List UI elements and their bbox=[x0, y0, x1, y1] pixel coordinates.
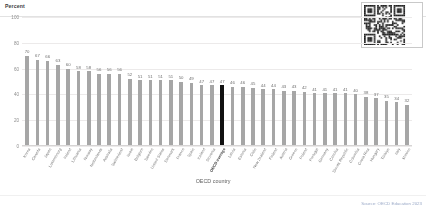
bar-column: 50 bbox=[176, 17, 186, 146]
plot-area: 020406080100 706766636058585656565251515… bbox=[22, 17, 412, 146]
bar-value-label: 42 bbox=[302, 85, 307, 90]
x-axis-tick-label: Mexico bbox=[401, 147, 411, 160]
bar-value-label: 51 bbox=[168, 74, 173, 79]
bar-column: 32 bbox=[402, 17, 412, 146]
bar-value-label: 49 bbox=[189, 76, 194, 81]
bar-value-label: 41 bbox=[343, 87, 348, 92]
bar-value-label: 47 bbox=[199, 79, 204, 84]
bar[interactable] bbox=[385, 101, 389, 146]
bar[interactable] bbox=[179, 82, 183, 147]
bar-column: 43 bbox=[279, 17, 289, 146]
bar[interactable] bbox=[261, 89, 265, 146]
bar[interactable] bbox=[97, 74, 101, 146]
bar[interactable] bbox=[210, 85, 214, 146]
bar-value-label: 50 bbox=[179, 75, 184, 80]
bar[interactable] bbox=[56, 65, 60, 146]
bar[interactable] bbox=[313, 93, 317, 146]
bar-column: 44 bbox=[258, 17, 268, 146]
bar[interactable] bbox=[87, 71, 91, 146]
bar-value-label: 35 bbox=[384, 94, 389, 99]
x-axis-tick-label: Austria bbox=[278, 147, 288, 160]
bar[interactable] bbox=[323, 93, 327, 146]
bar[interactable] bbox=[66, 69, 70, 146]
bar[interactable] bbox=[107, 74, 111, 146]
bar[interactable] bbox=[159, 80, 163, 146]
x-axis-tick-label: Türkiye bbox=[380, 147, 391, 161]
bar-value-label: 51 bbox=[148, 74, 153, 79]
bar-column: 46 bbox=[238, 17, 248, 146]
bar-value-label: 43 bbox=[281, 84, 286, 89]
bar-value-label: 46 bbox=[240, 80, 245, 85]
bar-value-label: 67 bbox=[35, 53, 40, 58]
bar-value-label: 47 bbox=[220, 79, 225, 84]
bar-column: 51 bbox=[155, 17, 165, 146]
bar-column: 41 bbox=[330, 17, 340, 146]
bar-value-label: 47 bbox=[210, 79, 215, 84]
bar[interactable] bbox=[231, 87, 235, 146]
bar-value-label: 41 bbox=[312, 87, 317, 92]
bar-value-label: 32 bbox=[405, 98, 410, 103]
bar-value-label: 51 bbox=[158, 74, 163, 79]
bar[interactable] bbox=[251, 88, 255, 146]
bar-column: 41 bbox=[340, 17, 350, 146]
x-axis-tick-label: France bbox=[175, 147, 185, 160]
bar[interactable] bbox=[36, 60, 40, 146]
bar[interactable] bbox=[241, 87, 245, 146]
bar[interactable] bbox=[395, 102, 399, 146]
bar[interactable] bbox=[118, 74, 122, 146]
x-axis-tick-label: Hungary bbox=[369, 147, 381, 162]
bar-value-label: 56 bbox=[117, 67, 122, 72]
bar-highlighted[interactable] bbox=[220, 85, 224, 146]
bar[interactable] bbox=[138, 80, 142, 146]
bar-column: 37 bbox=[371, 17, 381, 146]
percent-axis-label: Percent bbox=[5, 3, 25, 9]
bar-column: 42 bbox=[299, 17, 309, 146]
bar-column: 51 bbox=[135, 17, 145, 146]
bar-value-label: 38 bbox=[364, 90, 369, 95]
bar[interactable] bbox=[292, 91, 296, 146]
bar-column: 47 bbox=[217, 17, 227, 146]
bar[interactable] bbox=[200, 85, 204, 146]
bar-column: 40 bbox=[351, 17, 361, 146]
bar-column: 56 bbox=[94, 17, 104, 146]
bar-column: 51 bbox=[166, 17, 176, 146]
bar[interactable] bbox=[405, 105, 409, 146]
x-axis-title: OECD country bbox=[0, 178, 426, 184]
bar[interactable] bbox=[303, 92, 307, 146]
bar-value-label: 41 bbox=[322, 87, 327, 92]
bar[interactable] bbox=[344, 93, 348, 146]
bar[interactable] bbox=[364, 97, 368, 146]
bar-value-label: 34 bbox=[394, 96, 399, 101]
bar[interactable] bbox=[190, 83, 194, 146]
y-axis-tick-label: 0 bbox=[16, 144, 19, 149]
bar-value-label: 60 bbox=[66, 62, 71, 67]
bar-column: 49 bbox=[186, 17, 196, 146]
bar-value-label: 46 bbox=[230, 80, 235, 85]
bar[interactable] bbox=[25, 56, 29, 146]
y-axis-tick-label: 20 bbox=[14, 118, 19, 123]
y-axis-tick-label: 40 bbox=[14, 92, 19, 97]
bar[interactable] bbox=[333, 93, 337, 146]
bar-value-label: 66 bbox=[45, 54, 50, 59]
bar-column: 66 bbox=[43, 17, 53, 146]
x-axis-tick-label: Japan bbox=[42, 147, 52, 159]
bar[interactable] bbox=[169, 80, 173, 146]
bar-column: 56 bbox=[114, 17, 124, 146]
bar-column: 58 bbox=[73, 17, 83, 146]
bar[interactable] bbox=[272, 89, 276, 146]
x-axis-tick-label: Israel bbox=[125, 147, 134, 158]
bar[interactable] bbox=[374, 98, 378, 146]
bar-column: 67 bbox=[32, 17, 42, 146]
bar[interactable] bbox=[128, 79, 132, 146]
bar[interactable] bbox=[282, 91, 286, 146]
bar[interactable] bbox=[354, 94, 358, 146]
bar[interactable] bbox=[77, 71, 81, 146]
bar[interactable] bbox=[46, 61, 50, 146]
bar[interactable] bbox=[149, 80, 153, 146]
bar-column: 38 bbox=[361, 17, 371, 146]
bar-series: 7067666360585856565652515151515049474747… bbox=[22, 17, 412, 146]
bar-column: 52 bbox=[125, 17, 135, 146]
x-axis-tick-label: Estonia bbox=[236, 147, 247, 161]
bar-column: 45 bbox=[248, 17, 258, 146]
bar-value-label: 37 bbox=[374, 92, 379, 97]
